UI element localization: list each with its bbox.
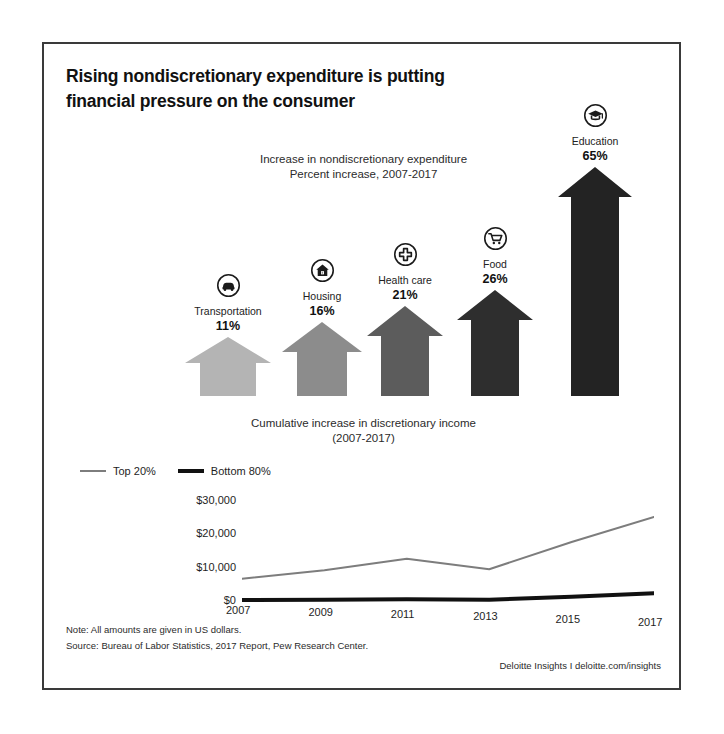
- arrow-label-transportation: Transportation: [185, 305, 271, 318]
- arrow-column-transportation: Transportation11%: [185, 273, 271, 400]
- x-tick-label: 2011: [391, 608, 415, 620]
- line-chart-title-line-2: (2007-2017): [44, 431, 683, 446]
- footer-source: Source: Bureau of Labor Statistics, 2017…: [66, 638, 666, 654]
- arrow-value-housing: 16%: [282, 303, 362, 320]
- line-chart-legend: Top 20% Bottom 80%: [80, 465, 271, 477]
- y-tick-label: $30,000: [196, 494, 236, 506]
- line-chart-plot-area: [242, 492, 654, 602]
- arrow-shape-transportation: [185, 337, 271, 400]
- arrow-value-health-care: 21%: [367, 287, 443, 304]
- arrow-column-food: Food26%: [457, 226, 533, 400]
- legend-swatch-bottom-80: [178, 469, 204, 473]
- arrow-value-education: 65%: [558, 148, 632, 165]
- medical-cross-icon: [367, 242, 443, 271]
- arrow-value-transportation: 11%: [185, 318, 271, 335]
- footer-note: Note: All amounts are given in US dollar…: [66, 622, 666, 638]
- arrow-shape-education: [558, 167, 632, 400]
- arrow-value-food: 26%: [457, 271, 533, 288]
- x-tick-label: 2007: [226, 604, 250, 616]
- deloitte-credit: Deloitte Insights I deloitte.com/insight…: [499, 660, 661, 671]
- line-chart-y-axis: $0$10,000$20,000$30,000: [104, 492, 236, 602]
- line-chart: $0$10,000$20,000$30,000 2007200920112013…: [44, 492, 683, 627]
- car-icon: [185, 273, 271, 302]
- arrow-shape-housing: [282, 322, 362, 400]
- legend-label-bottom-80: Bottom 80%: [211, 465, 271, 477]
- footer-notes: Note: All amounts are given in US dollar…: [66, 622, 666, 654]
- shopping-cart-icon: [457, 226, 533, 255]
- x-tick-label: 2013: [473, 610, 497, 622]
- y-tick-label: $10,000: [196, 561, 236, 573]
- line-chart-title: Cumulative increase in discretionary inc…: [44, 416, 683, 446]
- arrow-shape-health-care: [367, 306, 443, 400]
- legend-swatch-top-20: [80, 470, 106, 472]
- house-icon: [282, 258, 362, 287]
- arrow-chart: Transportation11%Housing16%Health care21…: [44, 44, 683, 414]
- arrow-column-housing: Housing16%: [282, 258, 362, 400]
- line-chart-title-line-1: Cumulative increase in discretionary inc…: [251, 417, 476, 429]
- arrow-shape-food: [457, 290, 533, 400]
- arrow-label-housing: Housing: [282, 290, 362, 303]
- arrow-column-health-care: Health care21%: [367, 242, 443, 400]
- arrow-column-education: Education65%: [558, 103, 632, 400]
- graduation-cap-icon: [558, 103, 632, 132]
- arrow-label-education: Education: [558, 135, 632, 148]
- x-tick-label: 2009: [308, 606, 332, 618]
- legend-item-top-20: Top 20%: [80, 465, 156, 477]
- infographic-frame: Rising nondiscretionary expenditure is p…: [42, 42, 681, 690]
- legend-label-top-20: Top 20%: [113, 465, 156, 477]
- arrow-label-health-care: Health care: [367, 274, 443, 287]
- y-tick-label: $20,000: [196, 527, 236, 539]
- arrow-label-food: Food: [457, 258, 533, 271]
- legend-item-bottom-80: Bottom 80%: [178, 465, 271, 477]
- line-chart-x-axis: 200720092011201320152017: [194, 604, 683, 624]
